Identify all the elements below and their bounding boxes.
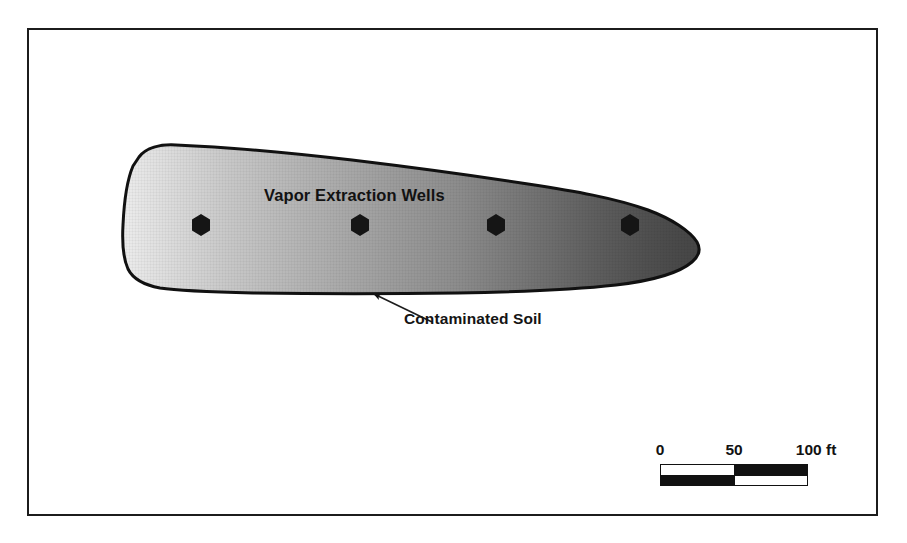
scale-bar-row-top <box>661 465 807 475</box>
scale-bar-graphic <box>660 464 808 486</box>
scale-segment <box>734 465 808 475</box>
scale-segment <box>734 476 808 486</box>
scale-segment <box>661 476 734 486</box>
scale-bar-row-bottom <box>661 475 807 486</box>
scale-bar-tick-labels: 0 50 100 ft <box>655 441 815 461</box>
scale-tick-50: 50 <box>725 441 742 459</box>
map-scale-bar: 0 50 100 ft <box>655 441 815 489</box>
scale-segment <box>661 465 734 475</box>
figure-root: Vapor Extraction Wells Contaminated Soil… <box>0 0 907 543</box>
vapor-extraction-wells-label: Vapor Extraction Wells <box>264 186 445 205</box>
scale-tick-0: 0 <box>656 441 665 459</box>
scale-tick-100-ft: 100 ft <box>796 441 837 459</box>
contaminated-soil-label: Contaminated Soil <box>404 310 542 328</box>
